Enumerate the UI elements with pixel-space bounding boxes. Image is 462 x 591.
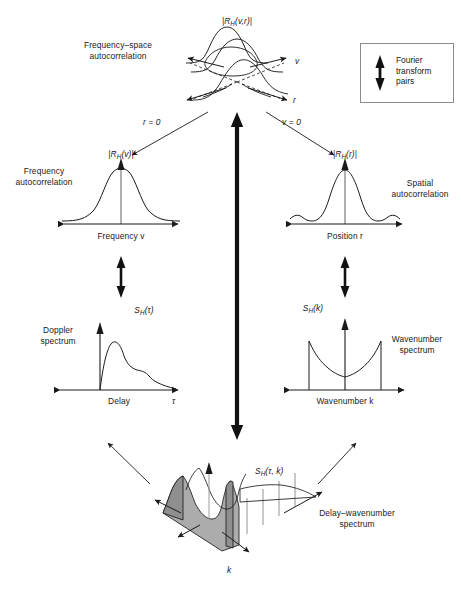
fourier-transform-pairs-box: Fourier transform pairs [360, 43, 454, 103]
ft-arrow-right [341, 256, 350, 298]
top-node-label: Frequency–spaceautocorrelation [84, 40, 152, 61]
top-surface-plot [186, 27, 288, 100]
spatial-autocorrelation-plot [290, 158, 402, 224]
frequency-autocorrelation-plot [62, 158, 180, 224]
ft-arrow-left [117, 256, 126, 298]
doppler-spectrum-plot [60, 322, 178, 390]
wavenumber-axis-label: Wavenumber k [316, 396, 373, 407]
bottom-arrow-left [108, 443, 150, 484]
position-axis-label: Position r [327, 231, 363, 242]
bottom-axis-k-label: k [227, 565, 231, 576]
frequency-autocorrelation-label: Frequencyautocorrelation [16, 166, 73, 187]
delay-wavenumber-function-label: SH(τ, k) [255, 466, 284, 480]
central-double-arrow [231, 112, 243, 440]
frequency-axis-label: Frequency v [97, 231, 144, 242]
branch-label-right: v = 0 [282, 117, 301, 128]
spatial-autocorrelation-label: Spatialautocorrelation [392, 178, 449, 199]
doppler-spectrum-label: Dopplerspectrum [40, 325, 75, 346]
frequency-autocorrelation-function-label: |RH(v)| [108, 149, 133, 163]
wavenumber-function-label: SH(k) [303, 303, 323, 317]
doppler-function-label: SH(τ) [134, 305, 153, 319]
delay-axis-symbol: τ [172, 396, 175, 407]
delay-wavenumber-surface-plot [155, 462, 322, 552]
figure-canvas: |RH(v,r)| Frequency–spaceautocorrelation… [0, 0, 462, 591]
branch-label-left: r = 0 [143, 117, 161, 128]
delay-wavenumber-spectrum-label: Delay–wavenumberspectrum [319, 508, 395, 529]
bottom-arrow-right [318, 443, 356, 484]
fourier-transform-pairs-text: Fourier transform pairs [396, 55, 431, 87]
wavenumber-spectrum-plot [290, 318, 404, 390]
top-axis-r-label: r [293, 95, 296, 106]
double-headed-arrow-icon [375, 55, 384, 91]
top-function-label: |RH(v,r)| [222, 16, 252, 30]
spatial-autocorrelation-function-label: |RH(r)| [333, 149, 357, 163]
delay-axis-label: Delay [108, 396, 130, 407]
top-axis-v-label: v [295, 56, 299, 67]
wavenumber-spectrum-label: Wavenumberspectrum [392, 334, 443, 355]
